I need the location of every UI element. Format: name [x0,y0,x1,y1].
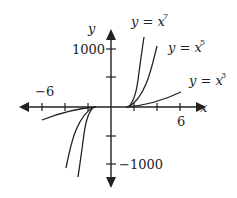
curve-x5 [128,46,157,107]
curve-x7 [128,37,144,107]
x-tick-label-min: −6 [35,84,54,99]
y-axis-label: y [87,21,96,36]
y-tick-label-min: −1000 [119,157,163,172]
svg-text:5: 5 [200,38,205,47]
label-x3: y = x 3 [188,71,226,88]
x-axis-left-arrow-icon [19,102,29,112]
curve-x7-neg [78,107,94,177]
x-tick-label-max: 6 [177,114,185,129]
y-axis-up-arrow-icon [106,29,116,40]
x-axis-label: x [200,100,208,115]
axes [26,38,200,180]
svg-text:y = x: y = x [167,40,203,55]
svg-text:y = x: y = x [130,14,166,29]
svg-text:y = x: y = x [188,73,224,88]
power-functions-chart: x y −6 6 1000 −1000 y = x 7 y = x 5 y = … [0,0,237,198]
svg-text:3: 3 [221,71,226,80]
label-x7: y = x 7 [130,12,168,29]
svg-text:7: 7 [163,12,168,21]
y-axis-down-arrow-icon [106,177,116,188]
label-x5: y = x 5 [167,38,205,55]
y-tick-label-max: 1000 [72,42,105,57]
